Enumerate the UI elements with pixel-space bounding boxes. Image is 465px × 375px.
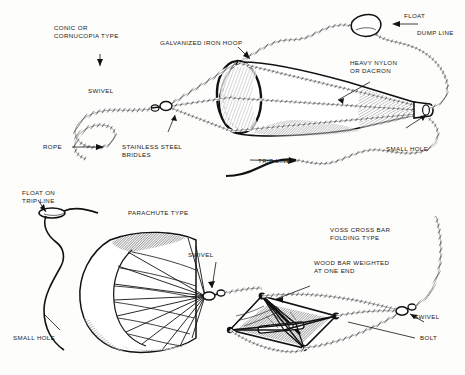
float-label-conic: FLOAT (404, 12, 425, 20)
heavy-nylon-label-line2: OR DACRON (350, 67, 391, 75)
dump-line-label: DUMP LINE (417, 29, 454, 37)
float-on-trip-line-label-line2: TRIP LINE (22, 197, 55, 205)
conic-heading-line1: CONIC OR (54, 24, 88, 32)
swivel-label-conic: SWIVEL (88, 87, 113, 95)
small-hole-label-conic: SMALL HOLE (386, 145, 428, 153)
small-hole-label-parachute: SMALL HOLE (13, 334, 55, 342)
swivel-label-parachute: SWIVEL (188, 251, 213, 259)
swivel-label-voss: SWIVEL (414, 313, 439, 321)
parachute-type-heading: PARACHUTE TYPE (128, 209, 188, 217)
conic-heading-line2: CORNUCOPIA TYPE (54, 32, 119, 40)
stainless-bridles-label-line2: BRIDLES (122, 151, 151, 159)
bolt-label: BOLT (420, 334, 437, 342)
voss-heading-line1: VOSS CROSS BAR (330, 226, 390, 234)
heavy-nylon-label-line1: HEAVY NYLON (350, 59, 397, 67)
rope-label: ROPE (43, 143, 62, 151)
galvanized-iron-hoop-label: GALVANIZED IRON HOOP (160, 39, 242, 47)
diagram-artwork (0, 0, 465, 375)
float-on-trip-line-label-line1: FLOAT ON (22, 189, 55, 197)
stainless-bridles-label-line1: STAINLESS STEEL (122, 143, 182, 151)
wood-bar-label-line1: WOOD BAR WEIGHTED (314, 259, 389, 267)
diagram-page: CONIC OR CORNUCOPIA TYPE GALVANIZED IRON… (0, 0, 465, 375)
float-conic (351, 15, 381, 37)
voss-heading-line2: FOLDING TYPE (330, 234, 379, 242)
wood-bar-label-line2: AT ONE END (314, 267, 355, 275)
trip-line-label: TRIP LINE (258, 157, 291, 165)
